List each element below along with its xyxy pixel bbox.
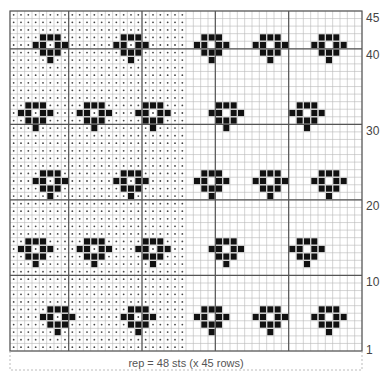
- motif-square: [135, 49, 141, 55]
- motif-square: [121, 49, 127, 55]
- motif-square: [319, 306, 325, 312]
- motif-square: [157, 110, 163, 116]
- motif-square: [40, 253, 46, 259]
- motif-square: [157, 253, 163, 259]
- motif-square: [209, 321, 215, 327]
- motif-square: [326, 185, 332, 191]
- motif-square: [253, 314, 259, 320]
- motif-square: [319, 321, 325, 327]
- motif-square: [319, 246, 325, 252]
- motif-square: [223, 102, 229, 108]
- motif-square: [55, 306, 61, 312]
- motif-square: [150, 314, 156, 320]
- motif-square: [40, 238, 46, 244]
- motif-square: [150, 238, 156, 244]
- motif-square: [326, 306, 332, 312]
- motif-square: [47, 57, 53, 63]
- motif-square: [194, 42, 200, 48]
- motif-square: [209, 306, 215, 312]
- motif-square: [253, 42, 259, 48]
- motif-square: [201, 185, 207, 191]
- motif-square: [326, 57, 332, 63]
- motif-square: [319, 314, 325, 320]
- motif-square: [275, 49, 281, 55]
- motif-square: [260, 185, 266, 191]
- motif-square: [209, 49, 215, 55]
- motif-square: [99, 102, 105, 108]
- motif-square: [77, 246, 83, 252]
- motif-square: [319, 49, 325, 55]
- motif-square: [209, 185, 215, 191]
- motif-square: [333, 306, 339, 312]
- motif-square: [311, 178, 317, 184]
- motif-square: [297, 102, 303, 108]
- motif-square: [40, 170, 46, 176]
- motif-square: [150, 102, 156, 108]
- motif-square: [84, 102, 90, 108]
- motif-square: [282, 314, 288, 320]
- motif-square: [47, 34, 53, 40]
- motif-square: [135, 42, 141, 48]
- motif-square: [260, 314, 266, 320]
- motif-square: [99, 117, 105, 123]
- motif-square: [319, 110, 325, 116]
- motif-square: [333, 185, 339, 191]
- motif-square: [128, 306, 134, 312]
- motif-square: [157, 238, 163, 244]
- motif-square: [40, 185, 46, 191]
- motif-square: [128, 34, 134, 40]
- motif-square: [84, 246, 90, 252]
- motif-square: [216, 117, 222, 123]
- motif-square: [47, 185, 53, 191]
- motif-square: [209, 57, 215, 63]
- row-label: 30: [366, 125, 379, 137]
- motif-square: [201, 314, 207, 320]
- motif-square: [311, 238, 317, 244]
- motif-square: [267, 49, 273, 55]
- motif-square: [267, 321, 273, 327]
- motif-square: [62, 178, 68, 184]
- motif-square: [55, 329, 61, 335]
- motif-square: [18, 246, 24, 252]
- motif-square: [99, 110, 105, 116]
- motif-square: [84, 253, 90, 259]
- motif-square: [231, 246, 237, 252]
- motif-square: [77, 110, 83, 116]
- motif-square: [333, 170, 339, 176]
- motif-square: [326, 193, 332, 199]
- motif-square: [143, 306, 149, 312]
- motif-square: [311, 110, 317, 116]
- motif-square: [113, 178, 119, 184]
- motif-square: [311, 102, 317, 108]
- motif-square: [223, 253, 229, 259]
- repeat-label: rep = 48 sts (x 45 rows): [124, 357, 247, 369]
- motif-square: [135, 306, 141, 312]
- motif-square: [55, 49, 61, 55]
- motif-square: [238, 246, 244, 252]
- motif-square: [253, 178, 259, 184]
- motif-square: [304, 102, 310, 108]
- motif-square: [121, 42, 127, 48]
- motif-square: [143, 102, 149, 108]
- motif-square: [231, 238, 237, 244]
- motif-square: [47, 110, 53, 116]
- motif-square: [84, 110, 90, 116]
- motif-square: [40, 178, 46, 184]
- motif-square: [216, 170, 222, 176]
- motif-square: [40, 117, 46, 123]
- motif-square: [311, 42, 317, 48]
- motif-square: [260, 49, 266, 55]
- motif-square: [40, 246, 46, 252]
- motif-square: [165, 246, 171, 252]
- motif-square: [143, 314, 149, 320]
- motif-square: [319, 178, 325, 184]
- motif-square: [121, 314, 127, 320]
- motif-square: [201, 306, 207, 312]
- motif-square: [99, 246, 105, 252]
- motif-square: [319, 34, 325, 40]
- motif-square: [304, 253, 310, 259]
- motif-square: [201, 34, 207, 40]
- motif-square: [231, 110, 237, 116]
- motif-square: [209, 110, 215, 116]
- motif-square: [275, 185, 281, 191]
